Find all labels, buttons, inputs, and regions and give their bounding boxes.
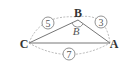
angle-b-label: B xyxy=(73,25,80,37)
length-ca-text: 7 xyxy=(67,49,72,60)
vertex-a-label: A xyxy=(110,37,119,51)
vertex-b-label: B xyxy=(74,6,82,20)
triangle-diagram: 5 3 7 C A B B xyxy=(0,0,127,70)
length-ba-text: 3 xyxy=(99,17,104,28)
length-label-ba: 3 xyxy=(95,16,107,28)
length-cb-text: 5 xyxy=(46,18,51,29)
vertex-c-label: C xyxy=(20,37,29,51)
length-label-cb: 5 xyxy=(42,17,54,29)
length-label-ca: 7 xyxy=(63,48,75,60)
